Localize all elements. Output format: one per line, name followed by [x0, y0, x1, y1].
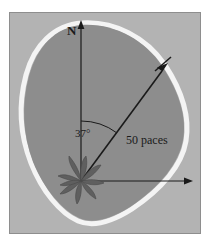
treasure-map-figure: N 37° 50 paces [0, 0, 210, 247]
bearing-angle-label: 37° [75, 128, 90, 139]
map-canvas [10, 13, 200, 233]
east-axis-arrowhead [184, 178, 193, 185]
north-axis-label: N [67, 24, 76, 37]
distance-label: 50 paces [126, 134, 168, 146]
map-frame: N 37° 50 paces [9, 12, 201, 234]
